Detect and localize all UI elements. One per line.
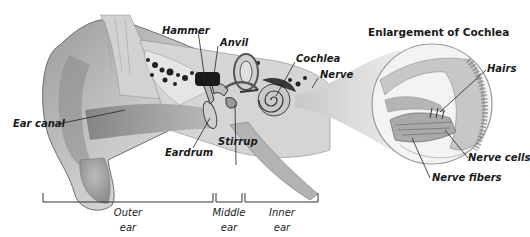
- cochlea-enlargement: [372, 44, 492, 164]
- region-middle-ear-line2: ear: [206, 220, 252, 235]
- region-middle-ear: Middle ear: [206, 205, 252, 235]
- label-nerve-fibers: Nerve fibers: [432, 173, 502, 183]
- region-outer-ear: Outer ear: [103, 205, 153, 235]
- label-cochlea: Cochlea: [296, 54, 340, 64]
- label-hairs: Hairs: [487, 64, 516, 74]
- enlargement-title: Enlargement of Cochlea: [368, 27, 509, 38]
- label-stirrup: Stirrup: [218, 137, 258, 147]
- ear-anatomy-diagram: Enlargement of Cochlea Hammer Anvil Coch…: [0, 0, 530, 237]
- label-eardrum: Eardrum: [165, 148, 213, 158]
- region-inner-ear-line2: ear: [262, 220, 302, 235]
- region-outer-ear-line1: Outer: [103, 205, 153, 220]
- label-anvil: Anvil: [220, 38, 248, 48]
- region-outer-ear-line2: ear: [103, 220, 153, 235]
- region-inner-ear-line1: Inner: [262, 205, 302, 220]
- region-inner-ear: Inner ear: [262, 205, 302, 235]
- label-hammer: Hammer: [162, 26, 210, 36]
- label-nerve-cells: Nerve cells: [468, 153, 530, 163]
- label-nerve: Nerve: [320, 70, 353, 80]
- region-middle-ear-line1: Middle: [206, 205, 252, 220]
- label-ear-canal: Ear canal: [13, 119, 65, 129]
